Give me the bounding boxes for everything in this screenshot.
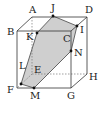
cross-section (21, 16, 77, 88)
point-F-section (20, 83, 23, 86)
label-L: L (19, 60, 26, 71)
point-I (76, 25, 79, 28)
label-I: I (80, 24, 84, 35)
label-A: A (28, 4, 37, 15)
label-H: H (89, 71, 98, 82)
cube-diagram: A J D B K C I N L E H F M G (0, 0, 105, 113)
label-M: M (30, 90, 40, 101)
label-D: D (85, 4, 93, 15)
label-G: G (67, 90, 75, 101)
point-K (36, 32, 39, 35)
label-C: C (63, 33, 71, 44)
label-J: J (50, 2, 55, 13)
label-K: K (26, 31, 34, 42)
point-J (52, 15, 55, 18)
point-M (33, 87, 36, 90)
label-B: B (7, 26, 14, 37)
label-E: E (34, 64, 41, 75)
label-N: N (74, 47, 83, 58)
point-N (70, 50, 73, 53)
label-F: F (7, 84, 14, 95)
